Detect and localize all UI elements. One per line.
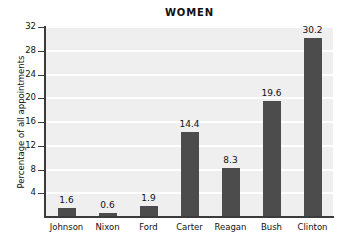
y-tick-label: 4: [0, 188, 36, 197]
bar[interactable]: [263, 101, 281, 217]
bar[interactable]: [304, 38, 322, 217]
y-tick-label: 20: [0, 93, 36, 102]
y-tick-mark: [38, 75, 44, 76]
bar-value-label: 1.6: [44, 195, 90, 206]
y-tick-mark: [38, 146, 44, 147]
y-tick-label: 28: [0, 46, 36, 55]
bar-value-label: 14.4: [167, 119, 213, 130]
y-tick-label: 24: [0, 70, 36, 79]
y-axis-line: [44, 26, 46, 218]
bar-chart: WOMEN Percentage of all appointments 481…: [0, 0, 340, 248]
y-tick-label: 16: [0, 117, 36, 126]
bar-value-label: 30.2: [290, 25, 336, 36]
bar[interactable]: [181, 132, 199, 218]
bar-value-label: 0.6: [85, 200, 131, 211]
bar-value-label: 1.9: [126, 193, 172, 204]
gridline: [46, 50, 333, 52]
gridline: [46, 74, 333, 76]
y-tick-mark: [38, 122, 44, 123]
y-tick-label: 12: [0, 141, 36, 150]
y-tick-mark: [38, 27, 44, 28]
y-tick-mark: [38, 170, 44, 171]
y-tick-mark: [38, 51, 44, 52]
y-tick-label: 32: [0, 22, 36, 31]
bar[interactable]: [222, 168, 240, 217]
y-tick-mark: [38, 98, 44, 99]
bar-value-label: 19.6: [249, 88, 295, 99]
chart-title: WOMEN: [46, 7, 333, 19]
bar-value-label: 8.3: [208, 155, 254, 166]
x-axis-line: [44, 216, 334, 218]
x-axis-category-label: Clinton: [285, 222, 340, 233]
y-tick-label: 8: [0, 165, 36, 174]
